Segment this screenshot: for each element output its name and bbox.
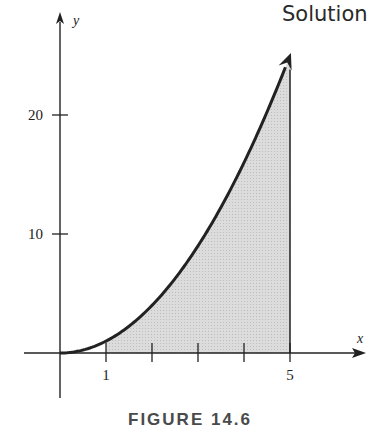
y-axis-label: y xyxy=(71,13,80,28)
figure-caption: FIGURE 14.6 xyxy=(128,410,252,430)
x-axis-label: x xyxy=(356,331,364,346)
x-tick-label: 1 xyxy=(102,367,110,383)
y-tick-label: 10 xyxy=(28,226,43,242)
y-tick-label: 20 xyxy=(28,107,43,123)
x-tick-label: 5 xyxy=(286,367,294,383)
shaded-area xyxy=(106,56,290,354)
shaded-region xyxy=(106,56,290,354)
chart-area: yx 151020 xyxy=(0,0,377,440)
